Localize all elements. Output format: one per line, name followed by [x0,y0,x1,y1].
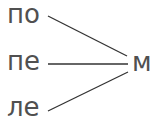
letter-m: м [132,49,152,75]
connector-line-le [48,72,128,111]
syllable-le: ле [7,94,40,120]
connector-line-po [48,16,127,56]
syllable-po: по [7,1,40,27]
syllable-pe: пе [7,48,40,74]
